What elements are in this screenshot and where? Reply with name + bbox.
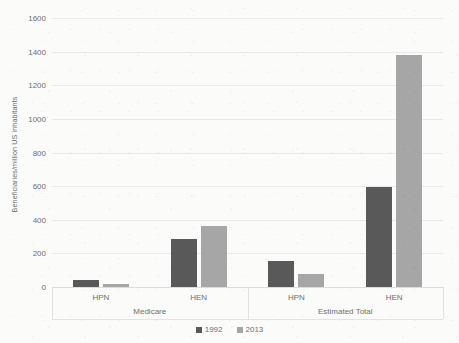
legend-item: 2013 (237, 325, 264, 334)
bar (201, 226, 227, 287)
y-tick-label: 0 (12, 283, 46, 292)
legend: 19922013 (0, 325, 459, 334)
bar (298, 274, 324, 287)
category-separator (52, 287, 53, 319)
y-tick-label: 200 (12, 249, 46, 258)
y-tick-label: 1000 (12, 114, 46, 123)
category-label: HEN (386, 293, 403, 302)
group-label: Estimated Total (318, 307, 373, 316)
bar (268, 261, 294, 287)
category-separator (443, 287, 444, 319)
category-separator (248, 287, 249, 319)
category-label: HPN (92, 293, 109, 302)
legend-label: 1992 (205, 325, 223, 334)
bar (73, 280, 99, 287)
plot-area (52, 18, 443, 287)
bar (396, 55, 422, 287)
y-tick-label: 600 (12, 182, 46, 191)
y-tick-label: 1600 (12, 14, 46, 23)
y-tick-label: 800 (12, 148, 46, 157)
group-label: Medicare (133, 307, 166, 316)
legend-label: 2013 (246, 325, 264, 334)
legend-swatch-icon (196, 327, 202, 333)
bar (171, 239, 197, 287)
category-axis-line (52, 319, 443, 320)
legend-swatch-icon (237, 327, 243, 333)
y-tick-label: 400 (12, 215, 46, 224)
bar (366, 187, 392, 287)
category-label: HPN (288, 293, 305, 302)
y-tick-label: 1400 (12, 47, 46, 56)
bar-chart: Beneficiaries/million US inhabitants 020… (0, 0, 459, 343)
y-tick-label: 1200 (12, 81, 46, 90)
bar (103, 284, 129, 287)
legend-item: 1992 (196, 325, 223, 334)
category-label: HEN (190, 293, 207, 302)
